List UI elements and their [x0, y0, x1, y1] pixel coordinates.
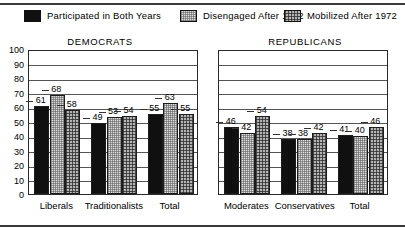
gridline: [219, 94, 387, 95]
x-axis-category-label: Total: [331, 201, 388, 211]
value-leader-line: [247, 111, 254, 112]
y-axis-tick-label: 60: [0, 104, 24, 113]
bar-moderates-series0: [224, 127, 239, 194]
value-leader-line: [155, 98, 162, 99]
bar-traditionalists-series2: [122, 116, 137, 194]
bar-total-series2: [179, 114, 194, 194]
legend-item-2: Mobilized After 1972: [284, 10, 397, 22]
bar-total-series0: [148, 114, 163, 194]
y-axis-tick-label: 80: [0, 75, 24, 84]
panel-title: REPUBLICANS: [205, 36, 405, 47]
value-leader-line: [140, 109, 147, 110]
value-leader-line: [42, 90, 49, 91]
solid-black-swatch-icon: [24, 10, 41, 22]
bar-moderates-series2: [255, 116, 270, 194]
bar-value-label: 46: [365, 117, 385, 126]
legend-item-0: Participated in Both Years: [24, 10, 161, 22]
value-leader-line: [345, 131, 352, 132]
bar-value-label: 68: [46, 85, 66, 94]
bar-conservatives-series0: [281, 139, 296, 194]
bar-liberals-series0: [34, 106, 49, 194]
bar-value-label: 54: [119, 106, 139, 115]
bar-moderates-series1: [240, 133, 255, 194]
value-leader-line: [171, 109, 178, 110]
panel-title: DEMOCRATS: [0, 36, 200, 47]
value-leader-line: [216, 122, 223, 123]
value-leader-line: [304, 128, 311, 129]
bar-traditionalists-series0: [91, 123, 106, 194]
y-axis-tick-label: 70: [0, 89, 24, 98]
x-axis-category-label: Total: [141, 201, 198, 211]
x-axis-category-label: Conservatives: [275, 201, 332, 211]
y-axis-tick-label: 20: [0, 162, 24, 171]
value-leader-line: [83, 118, 90, 119]
bar-value-label: 58: [62, 100, 82, 109]
legend-item-label: Mobilized After 1972: [307, 10, 397, 22]
bar-traditionalists-series1: [107, 117, 122, 194]
value-leader-line: [330, 130, 337, 131]
value-leader-line: [26, 101, 33, 102]
gridline: [219, 80, 387, 81]
bar-value-label: 42: [236, 123, 256, 132]
y-axis-tick-label: 30: [0, 147, 24, 156]
bar-liberals-series2: [65, 110, 80, 194]
bar-total-series0: [338, 135, 353, 194]
gray-crosshatch-swatch-icon: [284, 10, 301, 22]
bar-total-series1: [163, 103, 178, 194]
value-leader-line: [57, 105, 64, 106]
gridline: [29, 65, 197, 66]
value-leader-line: [232, 128, 239, 129]
plot-area: [28, 50, 198, 195]
bar-total-series1: [353, 136, 368, 194]
x-axis-category-label: Liberals: [28, 201, 85, 211]
bar-value-label: 55: [144, 104, 164, 113]
bar-value-label: 40: [350, 126, 370, 135]
y-axis-tick-label: 10: [0, 176, 24, 185]
bar-value-label: 61: [31, 96, 51, 105]
y-axis-tick-label: 100: [0, 46, 24, 55]
y-axis-tick-label: 40: [0, 133, 24, 142]
x-axis-category-label: Traditionalists: [85, 201, 142, 211]
bar-value-label: 55: [175, 104, 195, 113]
x-axis-category-label: Moderates: [218, 201, 275, 211]
gridline: [29, 80, 197, 81]
gridline: [219, 65, 387, 66]
bar-value-label: 63: [160, 93, 180, 102]
bar-conservatives-series1: [297, 139, 312, 194]
bar-total-series2: [369, 127, 384, 194]
gridline: [219, 109, 387, 110]
y-axis-tick-label: 50: [0, 118, 24, 127]
bar-value-label: 54: [252, 106, 272, 115]
value-leader-line: [273, 134, 280, 135]
panel-democrats: DEMOCRATS0102030405060708090100616858Lib…: [0, 36, 200, 226]
chart-legend: Participated in Both YearsDisengaged Aft…: [0, 10, 405, 26]
bar-conservatives-series2: [312, 133, 327, 194]
bar-liberals-series1: [50, 95, 65, 194]
legend-item-label: Participated in Both Years: [47, 10, 161, 22]
bar-value-label: 42: [309, 123, 329, 132]
y-axis-tick-label: 90: [0, 60, 24, 69]
panel-republicans: REPUBLICANS464254Moderates383842Conserva…: [205, 36, 405, 226]
value-leader-line: [114, 111, 121, 112]
chart-figure: Participated in Both YearsDisengaged Aft…: [0, 0, 405, 232]
top-divider-rule: [0, 3, 405, 5]
value-leader-line: [289, 134, 296, 135]
light-dotted-swatch-icon: [180, 10, 197, 22]
y-axis-tick-label: 0: [0, 191, 24, 200]
value-leader-line: [361, 122, 368, 123]
value-leader-line: [99, 112, 106, 113]
